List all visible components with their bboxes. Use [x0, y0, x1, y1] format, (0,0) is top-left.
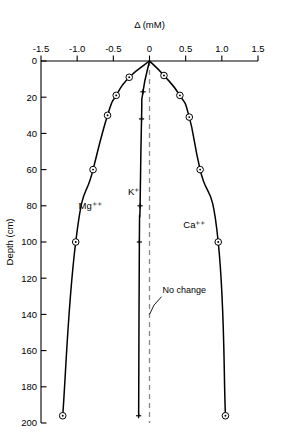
y-tick-label: 120	[21, 273, 37, 284]
annotation-no-change: No change	[163, 285, 207, 295]
data-marker-dot	[199, 169, 201, 171]
series-Mgplusplus	[59, 61, 149, 419]
data-marker-dot	[225, 415, 227, 417]
data-marker-dot	[217, 241, 219, 243]
data-marker-dot	[188, 116, 190, 118]
chart-figure: -1.5-1.0-0.500.51.01.5020406080100120140…	[0, 0, 282, 446]
annotation-leader-line	[150, 297, 162, 315]
y-tick-label: 80	[26, 200, 37, 211]
y-tick-label: 0	[32, 55, 37, 66]
data-marker-dot	[107, 114, 109, 116]
series-Caplusplus	[150, 61, 229, 419]
y-tick-label: 100	[21, 236, 37, 247]
series-label-Mgplusplus: Mg⁺⁺	[79, 200, 102, 211]
x-tick-label: -0.5	[105, 43, 121, 54]
y-tick-label: 160	[21, 345, 37, 356]
y-tick-label: 140	[21, 309, 37, 320]
x-tick-label: 1.5	[251, 43, 264, 54]
y-tick-label: 180	[21, 381, 37, 392]
y-tick-label: 60	[26, 164, 37, 175]
series-Kplus	[136, 61, 149, 418]
data-marker-dot	[128, 76, 130, 78]
x-tick-label: 1.0	[215, 43, 228, 54]
data-marker-dot	[62, 415, 64, 417]
text-group: -1.5-1.0-0.500.51.01.5020406080100120140…	[4, 19, 265, 428]
y-tick-label: 200	[21, 417, 37, 428]
data-marker-dot	[92, 169, 94, 171]
annotation-group	[150, 297, 162, 315]
data-marker-dot	[115, 94, 117, 96]
series-label-Caplusplus: Ca⁺⁺	[183, 219, 205, 230]
data-marker-dot	[75, 241, 77, 243]
y-axis-title: Depth (cm)	[4, 219, 15, 266]
series-line	[139, 61, 150, 416]
y-tick-label: 20	[26, 92, 37, 103]
series-label-Kplus: K⁺	[128, 186, 139, 197]
series-group	[59, 61, 228, 419]
data-marker-dot	[179, 94, 181, 96]
chart-canvas: -1.5-1.0-0.500.51.01.5020406080100120140…	[0, 0, 282, 446]
data-marker-dot	[163, 75, 165, 77]
x-tick-label: 0.5	[179, 43, 192, 54]
y-tick-label: 40	[26, 128, 37, 139]
x-axis-title: Δ (mM)	[134, 19, 165, 30]
x-tick-label: -1.5	[33, 43, 49, 54]
x-tick-label: 0	[147, 43, 152, 54]
x-tick-label: -1.0	[69, 43, 85, 54]
